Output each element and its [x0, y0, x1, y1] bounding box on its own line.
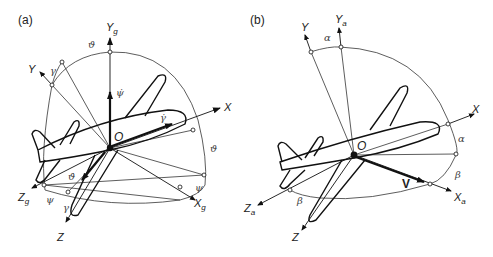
angle-alpha-right: α	[458, 134, 465, 144]
arc-lower-b	[290, 155, 456, 199]
axis-label-za: Za	[244, 203, 255, 217]
angle-theta-top: ϑ	[88, 40, 95, 50]
origin-label-b: O	[357, 140, 366, 152]
angle-gamma-top: γ	[50, 66, 56, 76]
axis-label-xg: Xg	[194, 198, 206, 212]
panel-b-body-wind-axes: (b) Y Ya X Xa Za Z O V α α β β	[250, 0, 493, 257]
axis-label-zg: Zg	[18, 192, 29, 206]
angle-alpha-top: α	[324, 33, 331, 43]
origin-label: O	[114, 131, 123, 143]
axis-label-y-b: Y	[301, 22, 308, 33]
axis-label-xa: Xa	[454, 192, 466, 206]
axis-label-y: Y	[28, 64, 35, 75]
axis-label-x: X	[224, 102, 231, 113]
angle-psi-right: ψ	[195, 183, 203, 193]
panel-a-earth-body-axes: (a) Yg Y X Zg Z Xg O ϑ γ ψ̇ γ̇ ϑ ϑ̇ ψ γ …	[0, 0, 250, 257]
angle-gamma-bottom: γ	[63, 203, 69, 213]
angle-theta-right: ϑ	[210, 144, 217, 154]
panel-a-diagram-drawing	[0, 0, 250, 257]
panel-b-diagram-drawing	[250, 0, 493, 257]
axis-label-ya: Ya	[335, 14, 347, 28]
angle-beta-right: β	[455, 170, 461, 180]
panel-a-label: (a)	[18, 14, 33, 26]
angle-gamma-dot: γ̇	[160, 113, 166, 123]
angle-psi-left: ψ	[46, 195, 54, 205]
arc-upper-b	[310, 47, 457, 155]
velocity-label: V	[402, 178, 410, 190]
angle-beta-bottom: β	[297, 196, 303, 206]
axis-label-x-b: X	[472, 104, 479, 115]
origin-point	[107, 145, 113, 151]
axis-label-z-b: Z	[292, 232, 299, 243]
angle-theta-dot: ϑ̇	[68, 172, 75, 182]
panel-b-label: (b)	[250, 14, 265, 26]
axis-label-yg: Yg	[106, 22, 118, 36]
angle-psi-dot: ψ̇	[116, 88, 124, 98]
axis-label-z: Z	[57, 232, 64, 243]
